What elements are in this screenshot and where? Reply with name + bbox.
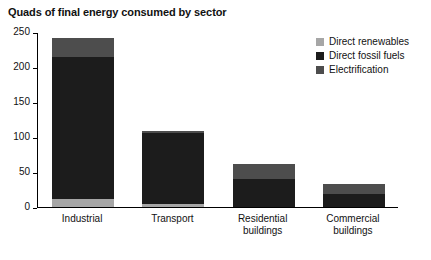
bar-segment[interactable]	[52, 38, 114, 58]
bar-segment[interactable]	[142, 133, 204, 204]
bar-segment[interactable]	[142, 204, 204, 208]
bar-stack	[323, 184, 385, 207]
x-axis-label-line: Commercial	[298, 213, 408, 225]
y-axis-tick-label: 200	[13, 61, 30, 72]
y-axis-tick-label: 0	[24, 201, 30, 212]
legend-item-label: Direct fossil fuels	[329, 50, 405, 61]
x-axis-label: Commercialbuildings	[298, 213, 408, 237]
bar-segment[interactable]	[52, 57, 114, 198]
legend-item[interactable]: Direct renewables	[316, 35, 409, 48]
bar-stack	[52, 38, 114, 207]
y-axis-tick-mark	[33, 208, 37, 209]
bar-segment[interactable]	[323, 194, 385, 207]
legend-item[interactable]: Electrification	[316, 63, 409, 76]
legend-item-label: Electrification	[329, 64, 388, 75]
energy-by-sector-chart: Quads of final energy consumed by sector…	[0, 0, 431, 260]
legend-swatch-icon	[316, 38, 324, 46]
y-axis-tick-label: 50	[19, 166, 30, 177]
bar-segment[interactable]	[52, 199, 114, 207]
legend-swatch-icon	[316, 66, 324, 74]
bar-segment[interactable]	[233, 164, 295, 179]
bar-stack	[142, 131, 204, 207]
bar-segment[interactable]	[233, 179, 295, 207]
y-axis-tick-label: 100	[13, 131, 30, 142]
chart-title: Quads of final energy consumed by sector	[8, 6, 227, 18]
bar-segment[interactable]	[323, 184, 385, 194]
legend-item-label: Direct renewables	[329, 36, 409, 47]
legend-item[interactable]: Direct fossil fuels	[316, 49, 409, 62]
y-axis-tick-label: 150	[13, 96, 30, 107]
chart-legend: Direct renewablesDirect fossil fuelsElec…	[316, 35, 409, 77]
x-axis-label-line: buildings	[298, 225, 408, 237]
y-axis-tick-label: 250	[13, 26, 30, 37]
legend-swatch-icon	[316, 52, 324, 60]
bar-stack	[233, 164, 295, 207]
